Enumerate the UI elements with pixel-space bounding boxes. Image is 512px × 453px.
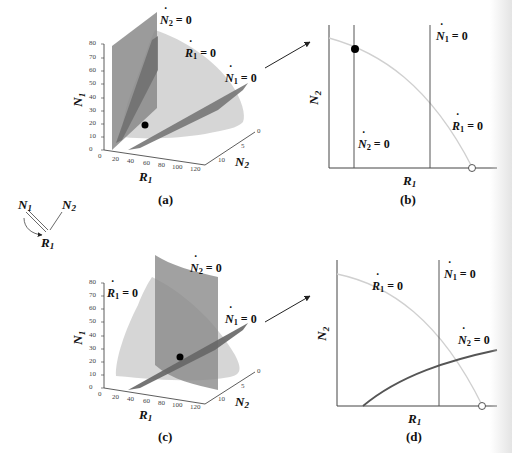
panel-b-caption: (b) bbox=[400, 193, 416, 206]
tick: 10 bbox=[89, 371, 96, 378]
tick: 40 bbox=[127, 158, 134, 165]
panel-b-n2-label: N˙2 = 0 bbox=[358, 138, 390, 153]
stable-equilibrium-dot bbox=[351, 45, 359, 53]
panel-d-n1-label: N˙1 = 0 bbox=[444, 268, 476, 283]
panel-a-r1-label: R˙1 = 0 bbox=[185, 47, 216, 62]
tick: 20 bbox=[112, 156, 119, 163]
node-n2: N2 bbox=[62, 198, 76, 213]
panel-a-3d-plot bbox=[101, 12, 255, 165]
node-r1: R1 bbox=[41, 236, 54, 251]
derivative-dot: ˙ bbox=[455, 112, 459, 124]
tick: 5 bbox=[241, 143, 245, 150]
tick: 60 bbox=[143, 160, 150, 167]
tick: 20 bbox=[89, 358, 96, 365]
equilibrium-point bbox=[142, 122, 149, 129]
panel-c-y-axis-label: N2 bbox=[235, 395, 249, 410]
panel-d-n2-label: N˙2 = 0 bbox=[458, 334, 490, 349]
interaction-network bbox=[24, 210, 62, 235]
panel-b-n1-label: N˙1 = 0 bbox=[436, 30, 468, 45]
tick: 20 bbox=[112, 394, 119, 401]
equilibrium-point bbox=[177, 354, 184, 361]
tick: 0 bbox=[257, 368, 261, 375]
tick: 0 bbox=[257, 128, 261, 135]
derivative-dot: ˙ bbox=[439, 22, 443, 34]
tick: 80 bbox=[89, 40, 96, 47]
tick: 0 bbox=[89, 384, 93, 391]
tick: 30 bbox=[89, 345, 96, 352]
tick: 40 bbox=[127, 396, 134, 403]
x-axis bbox=[104, 388, 205, 404]
feedback-arrow bbox=[24, 218, 42, 235]
panel-a-n2-label: N˙2 = 0 bbox=[160, 14, 192, 29]
arrow-c-to-d bbox=[265, 296, 310, 322]
panel-c-n1-label: N˙1 = 0 bbox=[225, 313, 257, 328]
tick: 0 bbox=[98, 153, 102, 160]
r1-nullcline-curve bbox=[329, 38, 472, 167]
panel-a-x-axis-label: R1 bbox=[139, 170, 152, 185]
derivative-dot: ˙ bbox=[228, 64, 232, 76]
panel-a-caption: (a) bbox=[158, 193, 173, 206]
tick: 60 bbox=[89, 305, 96, 312]
panel-b-r1-label: R˙1 = 0 bbox=[452, 120, 483, 135]
tick: 20 bbox=[89, 120, 96, 127]
derivative-dot: ˙ bbox=[110, 279, 114, 291]
panel-d-y-axis-label: N2 bbox=[315, 327, 330, 341]
tick: 40 bbox=[89, 94, 96, 101]
tick: 10 bbox=[89, 133, 96, 140]
panel-c-z-axis-label: N1 bbox=[71, 331, 86, 345]
panel-b-2d-plot bbox=[329, 25, 497, 172]
tick: 60 bbox=[89, 67, 96, 74]
tick: 40 bbox=[89, 332, 96, 339]
tick: 50 bbox=[89, 80, 96, 87]
derivative-dot: ˙ bbox=[193, 254, 197, 266]
tick: 50 bbox=[89, 318, 96, 325]
derivative-dot: ˙ bbox=[447, 260, 451, 272]
tick: 0 bbox=[89, 146, 93, 153]
panel-c-3d-plot bbox=[101, 255, 255, 404]
unstable-equilibrium-circle bbox=[479, 403, 486, 410]
x-axis bbox=[104, 150, 205, 165]
panel-c-caption: (c) bbox=[158, 430, 172, 443]
panel-a-z-axis-label: N1 bbox=[71, 93, 86, 107]
panel-d-caption: (d) bbox=[406, 430, 422, 443]
panel-c-r1-label: R˙1 = 0 bbox=[107, 287, 138, 302]
arrow-a-to-b bbox=[265, 42, 310, 68]
tick: 30 bbox=[89, 107, 96, 114]
derivative-dot: ˙ bbox=[361, 130, 365, 142]
tick: 60 bbox=[143, 398, 150, 405]
panel-c-x-axis-label: R1 bbox=[139, 408, 152, 423]
tick: 120 bbox=[190, 404, 201, 411]
panel-a-n1-label: N˙1 = 0 bbox=[225, 72, 257, 87]
tick: 70 bbox=[89, 54, 96, 61]
n2-isocline-curve bbox=[363, 350, 497, 406]
tick: 100 bbox=[172, 164, 183, 171]
panel-d-x-axis-label: R1 bbox=[408, 412, 421, 427]
tick: 80 bbox=[158, 400, 165, 407]
derivative-dot: ˙ bbox=[188, 39, 192, 51]
tick: 70 bbox=[89, 292, 96, 299]
derivative-dot: ˙ bbox=[228, 305, 232, 317]
edge-n2-r1 bbox=[50, 212, 62, 230]
tick: 80 bbox=[158, 162, 165, 169]
node-n1: N1 bbox=[18, 198, 32, 213]
tick: 10 bbox=[218, 157, 225, 164]
panel-b-y-axis-label: N2 bbox=[307, 91, 322, 105]
derivative-dot: ˙ bbox=[163, 6, 167, 18]
tick: 10 bbox=[218, 396, 225, 403]
edge-n1-r1 bbox=[26, 212, 46, 232]
derivative-dot: ˙ bbox=[461, 326, 465, 338]
tick: 100 bbox=[172, 402, 183, 409]
tick: 80 bbox=[89, 279, 96, 286]
tick: 120 bbox=[190, 166, 201, 173]
figure-canvas bbox=[0, 0, 512, 453]
panel-c-n2-label: N˙2 = 0 bbox=[190, 262, 222, 277]
panel-a-y-axis-label: N2 bbox=[235, 155, 249, 170]
unstable-equilibrium-circle bbox=[469, 165, 476, 172]
panel-b-x-axis-label: R1 bbox=[403, 174, 416, 189]
panel-d-r1-label: R˙1 = 0 bbox=[372, 280, 403, 295]
tick: 5 bbox=[241, 383, 245, 390]
derivative-dot: ˙ bbox=[375, 272, 379, 284]
tick: 0 bbox=[98, 391, 102, 398]
